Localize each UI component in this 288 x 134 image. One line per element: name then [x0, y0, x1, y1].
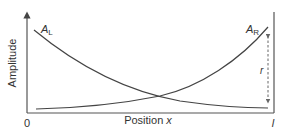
- curve-a-left: [34, 30, 268, 108]
- x-axis-label: Position x: [124, 114, 172, 126]
- x-origin-label: 0: [24, 117, 30, 129]
- curve-a-left-label: AL: [40, 23, 53, 37]
- reflection-label: r: [260, 65, 264, 76]
- curve-a-right: [36, 27, 268, 109]
- y-axis-label: Amplitude: [6, 39, 18, 88]
- curve-a-right-label: AR: [245, 23, 259, 37]
- x-end-label: l: [272, 117, 275, 129]
- amplitude-position-diagram: Amplitude AL AR r 0 Position x l: [0, 0, 288, 134]
